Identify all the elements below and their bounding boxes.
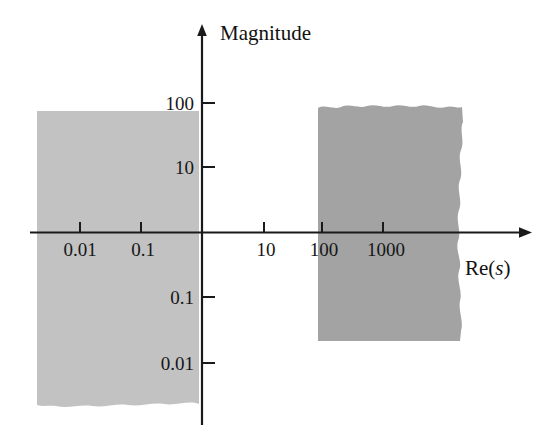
x-axis-title-prefix: Re(	[465, 256, 495, 280]
y-axis-title: Magnitude	[220, 21, 311, 45]
x-axis-title: Re(s)	[465, 256, 511, 280]
x-tick-label-10: 10	[257, 239, 276, 260]
x-tick-label-1000: 1000	[367, 239, 405, 260]
x-axis-title-suffix: )	[504, 256, 511, 280]
high-frequency-shaded-region	[318, 105, 463, 341]
y-axis-arrowhead	[197, 24, 207, 36]
magnitude-vs-re-s-plot: 0.01 0.1 10 100 1000 100 10 0.1 0.01 Mag…	[0, 0, 559, 442]
y-tick-label-0.01: 0.01	[161, 353, 194, 374]
x-tick-label-0.01: 0.01	[63, 239, 96, 260]
y-tick-label-0.1: 0.1	[170, 287, 194, 308]
figure-container: 0.01 0.1 10 100 1000 100 10 0.1 0.01 Mag…	[0, 0, 559, 442]
x-axis-arrowhead	[519, 227, 532, 238]
x-tick-label-100: 100	[310, 239, 339, 260]
x-axis-title-variable: s	[495, 256, 503, 280]
y-tick-label-100: 100	[166, 93, 195, 114]
y-tick-label-10: 10	[175, 157, 194, 178]
x-tick-label-0.1: 0.1	[131, 239, 155, 260]
